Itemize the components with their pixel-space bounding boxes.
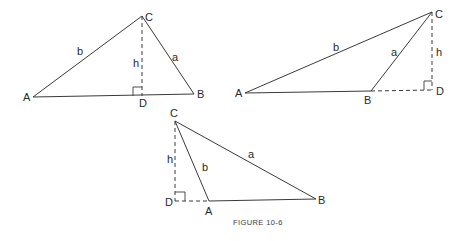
side-a-label-1: a [172,51,179,63]
vertex-a-label-1: A [23,91,31,103]
side-b-label-1: b [77,45,83,57]
right-angle-marker-2 [424,81,432,90]
right-angle-marker-3 [175,192,185,201]
base-ab-2 [245,91,371,93]
altitude-h-label-1: h [133,57,139,69]
triangle-3: C h b a D A B [165,107,325,217]
side-a-3 [175,121,316,199]
altitude-h-label-2: h [436,46,442,58]
vertex-c-label-1: C [145,11,153,23]
side-a-label-3: a [248,148,255,160]
vertex-b-label-1: B [197,88,204,100]
altitude-h-label-3: h [167,153,173,165]
side-b-label-3: b [202,161,208,173]
side-a-1 [142,16,194,94]
vertex-b-label-2: B [364,94,371,106]
vertex-c-label-3: C [170,107,178,119]
triangle-2: C b a h A B D [235,8,444,106]
vertex-a-label-3: A [205,205,213,217]
vertex-c-label-2: C [435,8,443,20]
vertex-d-label-1: D [139,97,147,109]
figure-caption: FIGURE 10-6 [233,218,283,227]
vertex-a-label-2: A [235,87,243,99]
triangle-1: C b h a A D B [23,11,204,109]
base-ab-3 [209,199,316,201]
side-b-1 [33,16,142,97]
figure-10-6: C b h a A D B C b a h A B D C h b a D A [0,0,467,241]
side-b-label-2: b [333,41,339,53]
side-a-2 [371,12,432,91]
base-extension-2 [371,90,432,91]
base-ab-1 [33,94,194,97]
vertex-b-label-3: B [318,194,325,206]
side-a-label-2: a [391,46,398,58]
vertex-d-label-3: D [165,196,173,208]
vertex-d-label-2: D [436,85,444,97]
